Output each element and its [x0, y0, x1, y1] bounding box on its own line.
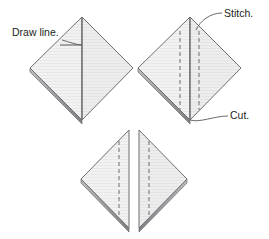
label-draw-line: Draw line.	[12, 26, 59, 38]
folding-diagram: Draw line. Stitch. Cut.	[0, 0, 269, 239]
label-cut: Cut.	[230, 109, 249, 121]
label-stitch: Stitch.	[224, 7, 253, 19]
diagram-root: Draw line. Stitch. Cut.	[0, 0, 269, 239]
